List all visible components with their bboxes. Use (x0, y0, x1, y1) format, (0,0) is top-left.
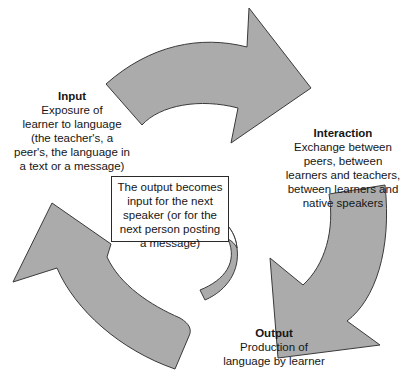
stage-interaction-line: peers, between (284, 154, 402, 168)
stage-input-title: Input (6, 89, 138, 103)
note-line: The output becomes (112, 180, 228, 194)
note-line: next person posting (112, 222, 228, 236)
stage-output-line: language by learner (214, 354, 334, 368)
stage-output-line: Production of (214, 340, 334, 354)
stage-input-line: (the teacher's, a (6, 131, 138, 145)
stage-output: Output Production of language by learner (214, 326, 334, 368)
note-line: a message) (112, 236, 228, 250)
stage-interaction-line: learners and teachers, (284, 168, 402, 182)
note-line: speaker (or for the (112, 208, 228, 222)
stage-interaction-line: between learners and (284, 182, 402, 196)
stage-input-line: peer's, the language in (6, 145, 138, 159)
stage-interaction-line: Exchange between (284, 140, 402, 154)
stage-output-title: Output (214, 326, 334, 340)
stage-interaction-line: native speakers (284, 196, 402, 210)
stage-input: Input Exposure of learner to language (t… (6, 89, 138, 173)
stage-input-line: a text or a message) (6, 159, 138, 173)
stage-interaction: Interaction Exchange between peers, betw… (284, 126, 402, 210)
stage-interaction-title: Interaction (284, 126, 402, 140)
stage-input-line: Exposure of (6, 103, 138, 117)
note-line: input for the next (112, 194, 228, 208)
stage-input-line: learner to language (6, 117, 138, 131)
note-box: The output becomes input for the next sp… (111, 176, 229, 242)
